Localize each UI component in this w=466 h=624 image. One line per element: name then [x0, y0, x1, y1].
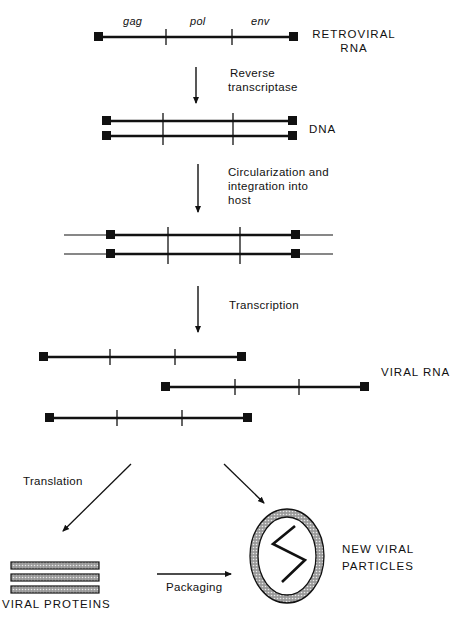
viral-rna-label: VIRAL RNA [381, 365, 450, 379]
reverse-transcriptase-line2: transcriptase [228, 80, 298, 94]
viral-rna-strand-3 [45, 410, 252, 426]
viral-particle [250, 509, 324, 603]
viral-proteins-bars [11, 562, 99, 593]
retroviral-rna-label-line2: RNA [312, 41, 396, 55]
viral-proteins-label: VIRAL PROTEINS [2, 597, 111, 611]
assembly-arrow [224, 464, 264, 503]
dna-double-strand [102, 113, 297, 145]
dna-label: DNA [309, 122, 336, 136]
integrated-provirus [64, 227, 333, 264]
retroviral-rna-label-line1: RETROVIRAL [312, 27, 396, 41]
viral-rna-strand-1 [39, 349, 246, 365]
new-viral-particles-line1: NEW VIRAL [342, 542, 414, 556]
transcription-label: Transcription [229, 298, 299, 312]
integration-line1: Circularization and [228, 165, 329, 179]
new-viral-particles-label: NEW VIRAL PARTICLES [342, 542, 414, 573]
retroviral-rna-label: RETROVIRAL RNA [312, 27, 396, 55]
translation-label: Translation [23, 474, 83, 488]
reverse-transcriptase-label: Reverse transcriptase [228, 66, 298, 94]
packaging-label: Packaging [166, 580, 222, 594]
gene-label-gag: gag [123, 14, 142, 28]
retroviral-rna-strand [94, 29, 298, 45]
viral-rna-strand-2 [161, 379, 369, 395]
new-viral-particles-line2: PARTICLES [342, 559, 414, 573]
gene-label-pol: pol [190, 14, 206, 28]
integration-line2: integration into [228, 179, 329, 193]
integration-line3: host [228, 193, 329, 207]
integration-label: Circularization and integration into hos… [228, 165, 329, 207]
reverse-transcriptase-line1: Reverse [228, 66, 298, 80]
gene-label-env: env [251, 14, 270, 28]
